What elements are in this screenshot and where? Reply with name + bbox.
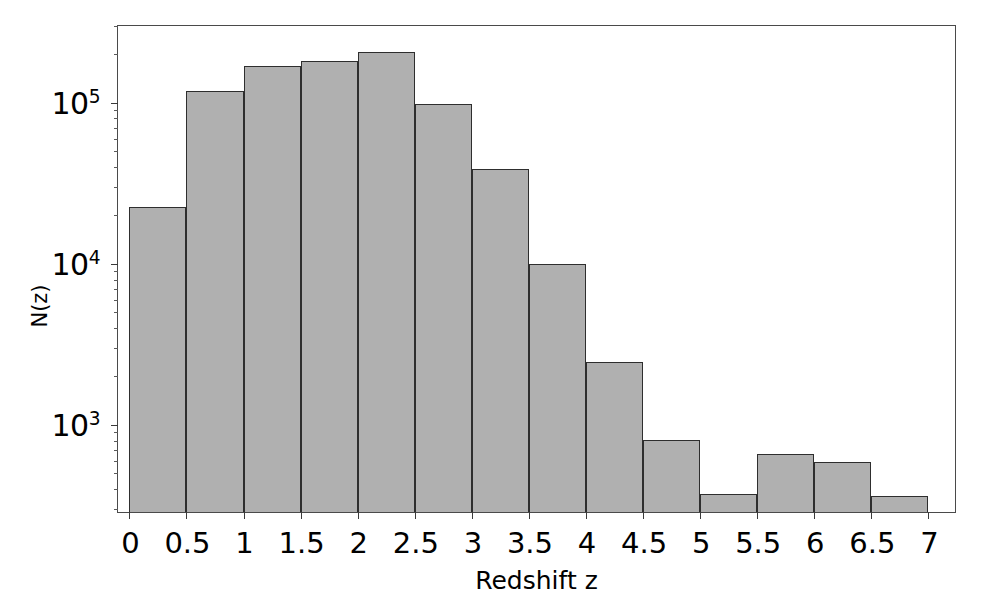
x-tick-mark: 5.5 (757, 512, 758, 519)
histogram-bar (586, 362, 643, 512)
x-tick-label: 5 (692, 529, 710, 558)
x-tick-label: 1 (235, 529, 253, 558)
y-tick-mark: 104 (111, 264, 118, 265)
histogram-bar (415, 104, 472, 512)
x-tick-label: 0.5 (164, 529, 210, 558)
histogram-bar (643, 440, 700, 512)
x-tick-label: 3.5 (507, 529, 553, 558)
histogram-bar (871, 496, 928, 512)
x-tick-mark: 2.5 (415, 512, 416, 519)
x-tick-mark: 7 (928, 512, 929, 519)
y-minor-tick-mark (114, 289, 118, 290)
x-tick-label: 1.5 (279, 529, 325, 558)
x-tick-label: 4.5 (621, 529, 667, 558)
y-minor-tick-mark (114, 376, 118, 377)
x-tick-label: 2.5 (393, 529, 439, 558)
x-tick-mark: 4.5 (643, 512, 644, 519)
y-minor-tick-mark (114, 280, 118, 281)
y-minor-tick-mark (114, 432, 118, 433)
y-tick-mark: 105 (111, 103, 118, 104)
histogram-bar (244, 66, 301, 512)
y-minor-tick-mark (114, 489, 118, 490)
y-minor-tick-mark (114, 26, 118, 27)
x-tick-mark: 1 (244, 512, 245, 519)
x-tick-label: 5.5 (735, 529, 781, 558)
x-tick-mark: 5 (700, 512, 701, 519)
y-tick-label: 104 (51, 250, 100, 280)
x-tick-mark: 4 (586, 512, 587, 519)
x-tick-label: 2 (349, 529, 367, 558)
x-tick-label: 4 (578, 529, 596, 558)
histogram-bar (700, 494, 757, 512)
histogram-bar (529, 264, 586, 512)
x-tick-mark: 3 (472, 512, 473, 519)
y-tick-label: 105 (51, 89, 100, 119)
y-minor-tick-mark (114, 441, 118, 442)
y-minor-tick-mark (114, 128, 118, 129)
x-tick-mark: 0.5 (186, 512, 187, 519)
histogram-bar (358, 52, 415, 512)
y-minor-tick-mark (114, 328, 118, 329)
y-minor-tick-mark (114, 215, 118, 216)
x-tick-label: 6 (806, 529, 824, 558)
y-minor-tick-mark (114, 461, 118, 462)
x-axis-title: Redshift z (117, 566, 956, 595)
y-minor-tick-mark (114, 312, 118, 313)
x-tick-mark: 0 (129, 512, 130, 519)
y-minor-tick-mark (114, 473, 118, 474)
y-minor-tick-mark (114, 300, 118, 301)
histogram-bars (118, 26, 955, 512)
histogram-bar (757, 454, 814, 512)
y-minor-tick-mark (114, 509, 118, 510)
x-tick-mark: 1.5 (301, 512, 302, 519)
figure-canvas: N(z) 103104105 00.511.522.533.544.555.56… (0, 0, 987, 612)
y-minor-tick-mark (114, 139, 118, 140)
y-tick-label: 103 (51, 411, 100, 441)
histogram-bar (301, 61, 358, 512)
x-tick-label: 0 (121, 529, 139, 558)
y-minor-tick-mark (114, 54, 118, 55)
y-minor-tick-mark (114, 450, 118, 451)
y-minor-tick-mark (114, 167, 118, 168)
y-minor-tick-mark (114, 110, 118, 111)
x-tick-label: 6.5 (849, 529, 895, 558)
histogram-bar (814, 462, 871, 512)
x-tick-mark: 6 (814, 512, 815, 519)
y-tick-mark: 103 (111, 425, 118, 426)
y-minor-tick-mark (114, 151, 118, 152)
histogram-bar (472, 169, 529, 512)
x-tick-label: 3 (464, 529, 482, 558)
y-minor-tick-mark (114, 271, 118, 272)
x-tick-mark: 6.5 (871, 512, 872, 519)
x-tick-label: 7 (920, 529, 938, 558)
y-axis-title: N(z) (28, 284, 52, 327)
y-minor-tick-mark (114, 348, 118, 349)
plot-area: 103104105 00.511.522.533.544.555.566.57 (117, 25, 956, 513)
y-minor-tick-mark (114, 118, 118, 119)
histogram-bar (129, 207, 186, 512)
y-minor-tick-mark (114, 187, 118, 188)
x-tick-mark: 2 (358, 512, 359, 519)
histogram-bar (186, 91, 243, 512)
x-tick-mark: 3.5 (529, 512, 530, 519)
